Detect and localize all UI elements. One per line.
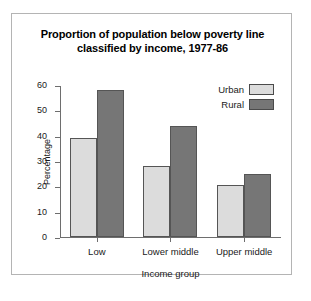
y-axis-tick-label: 10	[37, 207, 47, 217]
bar-group: Low	[60, 85, 134, 237]
x-axis-tick	[97, 237, 98, 242]
bar-rural-low	[97, 90, 124, 237]
x-axis-label: Income group	[60, 268, 281, 279]
chart-title: Proportion of population below poverty l…	[20, 27, 285, 55]
bar-group: Upper middle	[207, 85, 281, 237]
bar-urban-lower-middle	[143, 166, 170, 237]
chart-title-line-1: Proportion of population below poverty l…	[41, 28, 265, 40]
chart-figure: Proportion of population below poverty l…	[11, 13, 292, 275]
plot-area: 0102030405060 Percentage LowLower middle…	[60, 86, 281, 238]
bar-group: Lower middle	[134, 85, 208, 237]
y-axis-tick-label: 50	[37, 105, 47, 115]
chart-title-line-2: classified by income, 1977-86	[20, 41, 285, 55]
bar-rural-upper-middle	[244, 174, 271, 237]
x-axis-tick	[170, 237, 171, 242]
y-axis-tick-label: 0	[42, 232, 47, 242]
bar-urban-upper-middle	[217, 185, 244, 237]
bar-urban-low	[70, 138, 97, 237]
x-axis-tick	[244, 237, 245, 242]
y-axis-tick-label: 60	[37, 80, 47, 90]
x-axis-tick-label: Low	[88, 246, 105, 257]
y-axis-tick: 0	[55, 238, 60, 239]
x-axis-tick-label: Upper middle	[216, 246, 273, 257]
x-axis-tick-label: Lower middle	[142, 246, 199, 257]
bar-rural-lower-middle	[170, 126, 197, 237]
y-axis-label: Percentage	[42, 139, 52, 185]
